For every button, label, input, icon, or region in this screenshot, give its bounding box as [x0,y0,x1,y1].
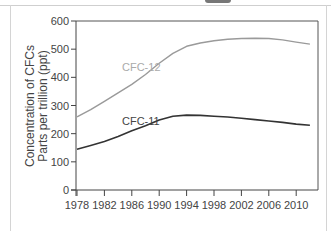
series-label-cfc-11: CFC-11 [122,115,160,127]
series-line-cfc-12 [77,38,310,117]
x-tick-label: 1982 [92,199,116,211]
y-tick-label: 300 [51,100,69,112]
x-tick-label: 1990 [147,199,171,211]
y-tick-label: 400 [51,71,69,83]
y-axis-label: Concentration of CFCs Parts per trillion… [24,45,50,167]
y-tick-label: 0 [63,184,69,196]
x-tick-label: 2002 [229,199,253,211]
y-tick-label: 600 [51,15,69,27]
y-axis-label-line2: Parts per trillion (ppt) [37,45,50,167]
x-tick-label: 1998 [202,199,226,211]
y-tick-label: 100 [51,156,69,168]
x-tick-label: 2006 [257,199,281,211]
y-tick-label: 200 [51,128,69,140]
x-tick-label: 1986 [120,199,144,211]
series-line-cfc-11 [77,115,310,149]
series-label-cfc-12: CFC-12 [122,61,161,73]
x-tick-label: 1994 [174,199,198,211]
x-tick-label: 1978 [65,199,89,211]
x-tick-label: 2010 [284,199,308,211]
y-tick-label: 500 [51,43,69,55]
